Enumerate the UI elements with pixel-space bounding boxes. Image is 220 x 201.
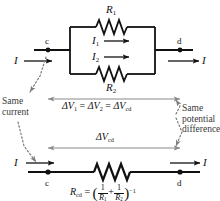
current-i1-label: I1 bbox=[92, 35, 99, 48]
node-dot-c-bottom bbox=[45, 169, 50, 174]
current-in-label-top: I bbox=[14, 55, 18, 66]
annotation-same-potential-line3: difference bbox=[182, 124, 220, 135]
bottom-circuit-wires bbox=[28, 164, 200, 180]
dotted-arrow-left-upper bbox=[30, 57, 46, 92]
node-label-d-bottom: d bbox=[177, 179, 182, 188]
top-circuit-current-arrows bbox=[24, 41, 199, 61]
fraction-one-over-r1: 1R1 bbox=[98, 184, 108, 201]
annotation-same-potential-difference: Same potential difference bbox=[182, 103, 220, 135]
annotation-same-current: Same current bbox=[2, 96, 29, 117]
resistor-rcd-symbol bbox=[94, 164, 130, 180]
annotation-same-current-line2: current bbox=[2, 107, 29, 118]
node-label-c-bottom: c bbox=[45, 179, 49, 188]
label-delta-v-cd: ΔVcd bbox=[96, 132, 114, 143]
node-dot-d-bottom bbox=[177, 169, 182, 174]
dotted-arrow-right-upper bbox=[176, 100, 180, 114]
current-in-label-bottom: I bbox=[14, 157, 18, 168]
top-circuit-wires bbox=[34, 20, 193, 81]
resistor-r2-label: R2 bbox=[106, 82, 116, 95]
equation-voltage-equality: ΔV1 = ΔV2 = ΔVcd bbox=[62, 101, 131, 112]
dotted-arrow-left-lower bbox=[18, 122, 36, 162]
equation-r-cd: Rcd = (1R1+1R2)−1 bbox=[70, 184, 136, 201]
fraction-one-over-r2: 1R2 bbox=[114, 184, 124, 201]
node-label-c-top: c bbox=[45, 37, 49, 46]
resistor-r2-symbol bbox=[96, 67, 127, 81]
current-out-label-bottom: I bbox=[203, 157, 207, 168]
annotation-same-potential-line1: Same bbox=[182, 103, 220, 114]
circuit-figure: R1 R2 I1 I2 I I c d Same current Same po… bbox=[0, 0, 220, 201]
current-out-label-top: I bbox=[202, 55, 206, 66]
node-dot-d-top bbox=[178, 48, 183, 53]
annotation-same-current-line1: Same bbox=[2, 96, 29, 107]
open-paren: ( bbox=[93, 187, 98, 200]
current-i2-label: I2 bbox=[92, 51, 99, 64]
node-dot-c-top bbox=[46, 48, 51, 53]
node-label-d-top: d bbox=[177, 37, 182, 46]
annotation-same-potential-line2: potential bbox=[182, 114, 220, 125]
resistor-r1-label: R1 bbox=[106, 4, 116, 17]
resistor-r1-symbol bbox=[96, 20, 127, 34]
